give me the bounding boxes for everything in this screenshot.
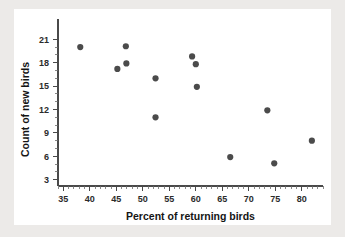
x-tick-label: 45 bbox=[111, 194, 121, 204]
y-tick-label: 21 bbox=[39, 35, 49, 45]
data-point bbox=[114, 66, 120, 72]
x-tick-label: 80 bbox=[297, 194, 307, 204]
scatter-plot-figure: 3540455055606570758036912151821Percent o… bbox=[0, 0, 345, 237]
data-point bbox=[152, 75, 158, 81]
data-point bbox=[309, 138, 315, 144]
x-tick-label: 65 bbox=[217, 194, 227, 204]
y-tick-label: 6 bbox=[44, 152, 49, 162]
y-tick-label: 15 bbox=[39, 81, 49, 91]
y-tick-label: 18 bbox=[39, 58, 49, 68]
data-point bbox=[152, 114, 158, 120]
x-tick-label: 60 bbox=[191, 194, 201, 204]
x-tick-label: 40 bbox=[85, 194, 95, 204]
x-axis-title: Percent of returning birds bbox=[126, 210, 255, 222]
data-point bbox=[227, 154, 233, 160]
y-tick-label: 3 bbox=[44, 175, 49, 185]
y-axis-title: Count of new birds bbox=[19, 62, 31, 157]
data-point bbox=[264, 107, 270, 113]
scatter-plot-svg: 3540455055606570758036912151821Percent o… bbox=[14, 9, 331, 225]
x-tick-label: 35 bbox=[58, 194, 68, 204]
plot-panel: 3540455055606570758036912151821Percent o… bbox=[14, 9, 331, 225]
data-point bbox=[193, 61, 199, 67]
data-point bbox=[189, 53, 195, 59]
data-point bbox=[77, 44, 83, 50]
x-tick-label: 75 bbox=[270, 194, 280, 204]
data-point bbox=[123, 60, 129, 66]
y-tick-label: 12 bbox=[39, 105, 49, 115]
data-point bbox=[271, 160, 277, 166]
y-tick-label: 9 bbox=[44, 128, 49, 138]
x-tick-label: 55 bbox=[164, 194, 174, 204]
plot-area: 3540455055606570758036912151821Percent o… bbox=[14, 9, 331, 225]
data-point bbox=[194, 84, 200, 90]
x-tick-label: 70 bbox=[244, 194, 254, 204]
x-tick-label: 50 bbox=[138, 194, 148, 204]
data-point bbox=[123, 43, 129, 49]
